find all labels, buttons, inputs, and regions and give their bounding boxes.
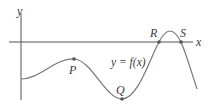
point-p-label: P (68, 63, 77, 77)
function-curve (21, 31, 197, 99)
curve-label: y = f(x) (110, 56, 146, 69)
point-s-label: S (180, 26, 186, 40)
point-q-label: Q (116, 83, 125, 97)
graph-canvas: y x P Q R S y = f(x) (0, 0, 209, 106)
point-p-marker (72, 57, 76, 61)
point-r-marker (157, 40, 161, 44)
y-axis-label: y (16, 4, 23, 18)
point-r-label: R (149, 26, 158, 40)
function-graph: y x P Q R S y = f(x) (0, 0, 209, 106)
x-axis-label: x (195, 35, 202, 49)
point-s-marker (179, 40, 183, 44)
point-q-marker (120, 97, 124, 101)
